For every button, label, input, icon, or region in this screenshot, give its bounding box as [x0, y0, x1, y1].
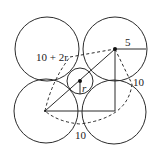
center-dot-top-right [113, 47, 117, 51]
label-small-radius: r [82, 82, 87, 94]
circle-bottom-right [82, 80, 146, 144]
dashed-left-arc [45, 57, 70, 111]
label-diagonal: 10 + 2r [36, 51, 68, 63]
geometry-diagram: 10 + 2r 5 10 r 10 [0, 0, 154, 151]
dashed-bottom-arc [45, 84, 132, 124]
label-big-radius: 5 [125, 36, 131, 48]
dashed-right-line [115, 49, 132, 84]
label-right-side: 10 [133, 76, 145, 88]
dashed-top-line [70, 49, 115, 57]
circle-top-left [15, 17, 79, 81]
label-bottom-side: 10 [75, 129, 87, 141]
center-dot-bottom-left [44, 110, 46, 112]
